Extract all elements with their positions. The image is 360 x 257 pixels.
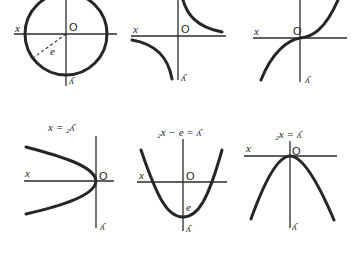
panel-sideways-parabola: x = ₂ʎ x O ʎ xyxy=(24,121,114,232)
origin-label: O xyxy=(186,170,195,182)
math-graphs-figure: x O e ʎ x O ʎ x O ʎ x = ₂ʎ x O ʎ ₂x − e … xyxy=(0,0,360,257)
parabola-curve xyxy=(251,156,334,220)
x-axis-label: x xyxy=(245,142,251,154)
panel-cubic: x O ʎ xyxy=(253,0,347,85)
x-axis-label: x xyxy=(132,23,138,35)
y-axis-label: ʎ xyxy=(181,71,187,83)
x-axis-label: x xyxy=(14,22,20,34)
x-axis-label: x xyxy=(138,169,144,181)
parabola-curve xyxy=(141,150,222,217)
equation-label: ₂x − e = ʎ xyxy=(157,126,202,138)
panel-hyperbola: x O ʎ xyxy=(131,0,226,83)
y-axis-label: ʎ xyxy=(292,220,298,232)
y-axis-label: ʎ xyxy=(69,74,75,86)
panel-circle: x O e ʎ xyxy=(14,0,117,86)
x-axis-label: x xyxy=(24,167,30,179)
origin-label: O xyxy=(99,170,108,182)
y-axis-label: ʎ xyxy=(186,222,192,234)
radius-label: e xyxy=(50,45,55,57)
y-axis-label: ʎ xyxy=(100,220,106,232)
equation-label: x = ₂ʎ xyxy=(47,121,76,133)
hyperbola-branch-lower xyxy=(132,40,172,79)
equation-label: ₂x = ʎ xyxy=(275,128,303,140)
origin-label: O xyxy=(292,145,301,157)
y-axis-label: ʎ xyxy=(305,73,311,85)
panel-downward-parabola: ₂x = ʎ x O ʎ xyxy=(244,128,337,232)
panel-upward-parabola: ₂x − e = ʎ x O e ʎ xyxy=(137,126,227,234)
origin-label: O xyxy=(293,25,302,37)
x-axis-label: x xyxy=(253,25,259,37)
intercept-label: e xyxy=(186,201,191,213)
origin-label: O xyxy=(69,21,78,33)
origin-label: O xyxy=(181,23,190,35)
